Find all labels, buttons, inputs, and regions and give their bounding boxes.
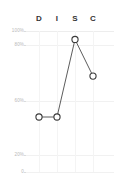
data-point-s[interactable] <box>72 36 78 42</box>
series-polyline <box>39 39 93 117</box>
data-point-d[interactable] <box>36 114 42 120</box>
data-point-i[interactable] <box>54 114 60 120</box>
disc-line-chart: D I S C 100% 80% 60% 20% 0 <box>0 0 116 179</box>
data-series-line <box>0 0 116 179</box>
data-point-c[interactable] <box>90 73 96 79</box>
